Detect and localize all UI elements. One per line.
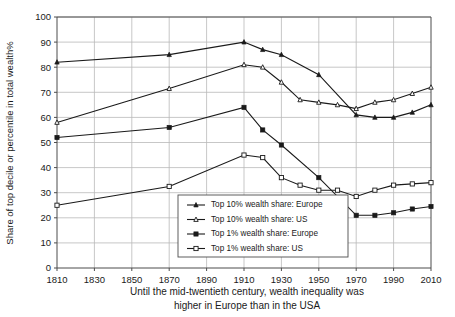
data-point-marker-filled-square	[392, 211, 396, 215]
data-point-marker-open-square	[410, 182, 414, 186]
x-axis-caption-line-1: Until the mid-twentieth century, wealth …	[130, 286, 364, 297]
data-point-marker-open-square	[392, 183, 396, 187]
wealth-inequality-chart-figure: 0102030405060708090100 18101830185018701…	[0, 0, 455, 317]
y-tick-label: 20	[40, 212, 51, 223]
y-tick-label: 10	[40, 237, 51, 248]
data-point-marker-filled-square	[317, 176, 321, 180]
x-tick-label: 1890	[196, 274, 217, 285]
y-tick-label: 60	[40, 112, 51, 123]
data-point-marker-open-square	[242, 153, 246, 157]
y-tick-label: 70	[40, 87, 51, 98]
data-point-marker-open-square	[298, 183, 302, 187]
data-point-marker-open-square	[335, 188, 339, 192]
x-tick-label: 1970	[346, 274, 367, 285]
chart-background	[0, 0, 455, 317]
y-tick-label: 90	[40, 37, 51, 48]
legend-item-label: Top 1% wealth share: Europe	[211, 229, 318, 238]
data-point-marker-filled-square	[429, 204, 433, 208]
data-point-marker-open-square	[373, 188, 377, 192]
y-tick-label: 0	[46, 262, 51, 273]
chart-canvas: 0102030405060708090100 18101830185018701…	[0, 0, 455, 317]
data-point-marker-open-square	[354, 194, 358, 198]
data-point-marker-open-square	[167, 184, 171, 188]
legend-item-label: Top 1% wealth share: US	[211, 244, 303, 253]
y-tick-label: 80	[40, 62, 51, 73]
y-tick-label: 30	[40, 187, 51, 198]
data-point-marker-filled-square	[279, 143, 283, 147]
data-point-marker-filled-square	[167, 125, 171, 129]
x-axis-caption-line-2: higher in Europe than in the USA	[174, 300, 321, 311]
data-point-marker-open-square	[55, 203, 59, 207]
data-point-marker-open-square	[429, 181, 433, 185]
x-tick-label: 1850	[121, 274, 142, 285]
data-point-marker-open-square	[317, 188, 321, 192]
data-point-marker-filled-square	[373, 213, 377, 217]
y-axis-title: Share of top decile or percentile in tot…	[4, 41, 15, 245]
data-point-marker-open-square	[279, 176, 283, 180]
y-tick-label: 50	[40, 137, 51, 148]
x-tick-label: 2010	[420, 274, 441, 285]
x-tick-label: 1870	[159, 274, 180, 285]
chart-legend: Top 10% wealth share: EuropeTop 10% weal…	[178, 195, 348, 257]
data-point-marker-filled-square	[194, 232, 198, 236]
data-point-marker-filled-square	[410, 207, 414, 211]
data-point-marker-open-square	[261, 155, 265, 159]
legend-item-label: Top 10% wealth share: Europe	[211, 200, 323, 209]
legend-item-label: Top 10% wealth share: US	[211, 215, 308, 224]
data-point-marker-filled-square	[261, 128, 265, 132]
data-point-marker-filled-square	[354, 213, 358, 217]
x-tick-label: 1990	[383, 274, 404, 285]
x-tick-label: 1810	[46, 274, 67, 285]
data-point-marker-filled-square	[55, 135, 59, 139]
data-point-marker-open-square	[194, 246, 198, 250]
x-tick-label: 1910	[233, 274, 254, 285]
y-tick-label: 100	[35, 11, 51, 22]
x-tick-label: 1930	[271, 274, 292, 285]
x-tick-label: 1950	[308, 274, 329, 285]
data-point-marker-filled-square	[242, 105, 246, 109]
x-tick-label: 1830	[84, 274, 105, 285]
y-tick-label: 40	[40, 162, 51, 173]
